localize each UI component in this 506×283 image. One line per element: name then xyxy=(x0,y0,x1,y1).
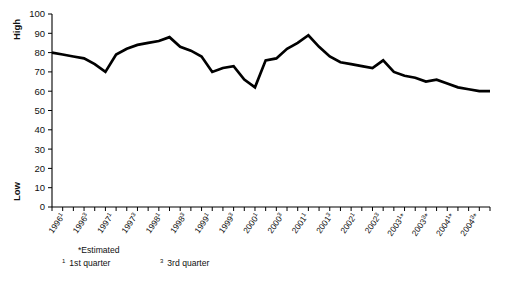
y-axis-title-low: Low xyxy=(11,181,22,201)
x-axis-tick-label-text: 19981 xyxy=(144,211,165,235)
x-axis-tick-label-text: 20013 xyxy=(314,211,335,235)
x-axis-tick-label-text: 20031* xyxy=(385,211,408,238)
y-axis-tick-label: 70 xyxy=(34,66,45,77)
chart-canvas: 0102030405060708090100HighLow19961199631… xyxy=(0,0,506,283)
x-axis-tick-label: 20003 xyxy=(265,211,286,235)
x-axis-tick-label: 19963 xyxy=(71,211,92,235)
footnote-estimated: *Estimated xyxy=(78,245,120,255)
x-axis-tick-label-text: 20003 xyxy=(265,211,286,235)
x-axis-tick-label: 19991 xyxy=(192,211,213,235)
y-axis-tick-label: 40 xyxy=(34,124,45,135)
x-axis-tick-label: 20001 xyxy=(241,211,262,235)
x-axis-tick-label: 19971 xyxy=(95,211,116,235)
x-axis-tick-label-text: 19971 xyxy=(95,211,116,235)
x-axis-tick-label-text: 19993 xyxy=(217,211,238,235)
line-chart: 0102030405060708090100HighLow19961199631… xyxy=(0,0,506,283)
x-axis-tick-label-text: 20001 xyxy=(241,211,262,235)
x-axis-tick-label: 19973 xyxy=(119,211,140,235)
x-axis-tick-label: 20043* xyxy=(458,211,481,238)
y-axis-tick-label: 0 xyxy=(40,201,45,212)
x-axis-tick-label: 20013 xyxy=(314,211,335,235)
y-axis-tick-label: 80 xyxy=(34,47,45,58)
x-axis-tick-label: 19961 xyxy=(46,211,67,235)
x-axis-tick-label-text: 20033* xyxy=(409,211,432,238)
x-axis-tick-label: 20033* xyxy=(409,211,432,238)
footnote-first-quarter: 11st quarter xyxy=(62,258,111,268)
x-axis-tick-label: 20023 xyxy=(363,211,384,235)
x-axis-tick-label: 19983 xyxy=(168,211,189,235)
x-axis-tick-label-text: 19973 xyxy=(119,211,140,235)
data-series-line xyxy=(52,35,490,91)
y-axis-tick-label: 10 xyxy=(34,182,45,193)
y-axis-tick-label: 30 xyxy=(34,144,45,155)
x-axis-tick-label: 20021 xyxy=(338,211,359,235)
y-axis-tick-label: 50 xyxy=(34,105,45,116)
x-axis-tick-label-text: 19963 xyxy=(71,211,92,235)
x-axis-tick-label: 19981 xyxy=(144,211,165,235)
x-axis-tick-label-text: 20041* xyxy=(434,211,457,238)
footnote-third-quarter: 33rd quarter xyxy=(160,258,210,268)
x-axis-tick-label: 20011 xyxy=(290,211,311,235)
x-axis-tick-label-text: 20021 xyxy=(338,211,359,235)
x-axis-tick-label: 20041* xyxy=(434,211,457,238)
x-axis-tick-label: 20031* xyxy=(385,211,408,238)
x-axis-tick-label-text: 20011 xyxy=(290,211,311,235)
x-axis-tick-label: 19993 xyxy=(217,211,238,235)
x-axis-tick-label-text: 20043* xyxy=(458,211,481,238)
x-axis-tick-label-text: 19991 xyxy=(192,211,213,235)
y-axis-tick-label: 90 xyxy=(34,28,45,39)
y-axis-tick-label: 60 xyxy=(34,86,45,97)
x-axis-tick-label-text: 19961 xyxy=(46,211,67,235)
y-axis-title-high: High xyxy=(11,19,22,40)
y-axis-tick-label: 100 xyxy=(29,8,45,19)
x-axis-tick-label-text: 20023 xyxy=(363,211,384,235)
y-axis-tick-label: 20 xyxy=(34,163,45,174)
x-axis-tick-label-text: 19983 xyxy=(168,211,189,235)
